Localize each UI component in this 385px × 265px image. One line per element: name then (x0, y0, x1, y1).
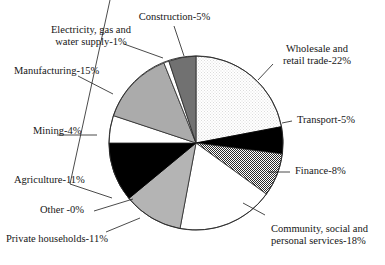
label-private-households: Private households-11% (6, 233, 136, 246)
label-construction: Construction-5% (122, 11, 227, 24)
leader-private-households (106, 218, 140, 232)
label-community-line2: personal services-18% (271, 235, 385, 248)
label-community-line1: Community, social and (271, 223, 385, 236)
leader-transport (282, 121, 292, 123)
label-electricity-line1: Electricity, gas and (36, 24, 146, 37)
leader-manufacturing (78, 76, 113, 94)
label-transport: Transport-5% (297, 114, 385, 127)
label-manufacturing: Manufacturing-15% (14, 65, 124, 78)
label-other: Other -0% (40, 204, 106, 217)
label-wholesale-line1: Wholesale and (265, 43, 369, 56)
pie-slices (109, 56, 283, 230)
label-agriculture: Agriculture-11% (14, 174, 114, 187)
pie-chart-figure: Construction-5% Electricity, gas and wat… (0, 0, 385, 265)
label-electricity-line2: water supply-1% (36, 36, 146, 49)
label-wholesale-line2: retail trade-22% (265, 55, 369, 68)
leader-construction (174, 26, 184, 56)
label-finance: Finance-8% (295, 165, 379, 178)
label-mining: Mining-4% (33, 125, 103, 138)
